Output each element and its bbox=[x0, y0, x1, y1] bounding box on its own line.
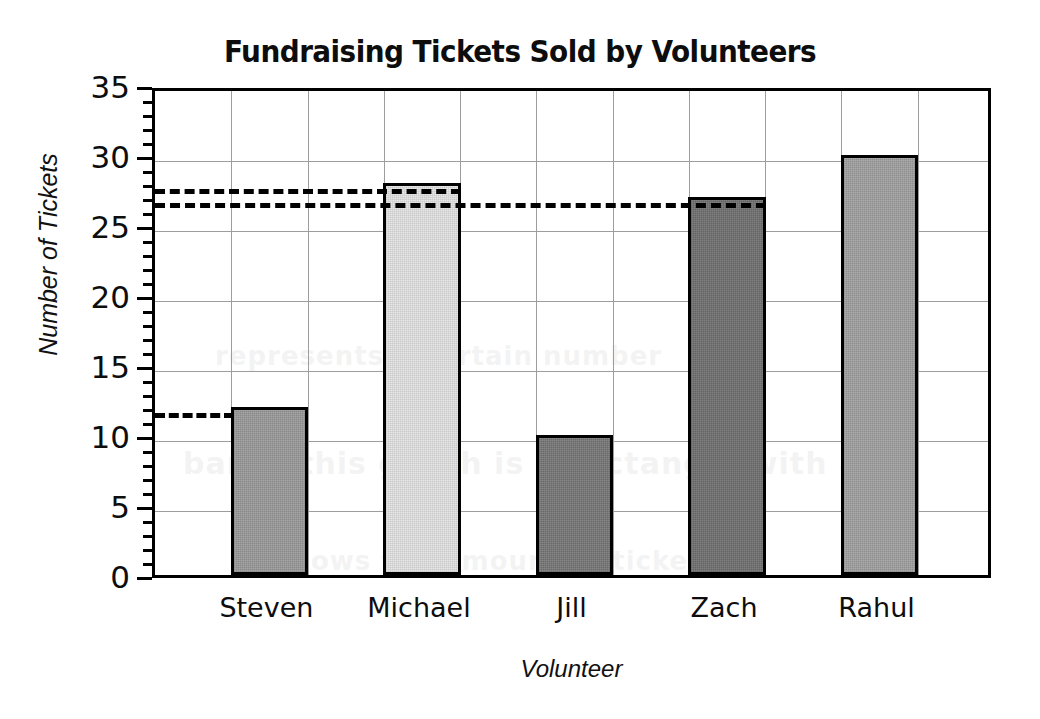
y-tick-major-30 bbox=[137, 157, 152, 160]
y-tick-minor-12 bbox=[143, 409, 152, 412]
y-tick-label-20: 20 bbox=[60, 282, 130, 313]
y-tick-minor-31 bbox=[143, 143, 152, 146]
bar-texture bbox=[539, 438, 611, 572]
y-tick-major-10 bbox=[137, 437, 152, 440]
y-tick-label-30: 30 bbox=[60, 142, 130, 173]
y-tick-minor-1 bbox=[143, 563, 152, 566]
y-tick-minor-9 bbox=[143, 451, 152, 454]
y-tick-major-25 bbox=[137, 227, 152, 230]
y-tick-major-35 bbox=[137, 87, 152, 90]
y-tick-minor-29 bbox=[143, 171, 152, 174]
y-tick-minor-8 bbox=[143, 465, 152, 468]
y-tick-minor-24 bbox=[143, 241, 152, 244]
y-tick-minor-28 bbox=[143, 185, 152, 188]
y-tick-label-5: 5 bbox=[60, 492, 130, 523]
y-tick-minor-18 bbox=[143, 325, 152, 328]
reference-line-12 bbox=[155, 413, 234, 418]
y-tick-minor-21 bbox=[143, 283, 152, 286]
bar-michael bbox=[383, 183, 461, 575]
y-tick-minor-27 bbox=[143, 199, 152, 202]
y-tick-minor-2 bbox=[143, 549, 152, 552]
y-tick-minor-17 bbox=[143, 339, 152, 342]
y-tick-minor-19 bbox=[143, 311, 152, 314]
bar-zach bbox=[688, 197, 766, 575]
y-tick-minor-34 bbox=[143, 101, 152, 104]
y-tick-label-0: 0 bbox=[60, 562, 130, 593]
y-tick-label-15: 15 bbox=[60, 352, 130, 383]
bar-texture bbox=[234, 410, 306, 572]
y-tick-minor-26 bbox=[143, 213, 152, 216]
chart-figure: Fundraising Tickets Sold by Volunteers N… bbox=[0, 0, 1040, 719]
y-axis-title: Number of Tickets bbox=[34, 55, 63, 455]
plot-inner: bar in this graph is a rectangle with as… bbox=[155, 91, 988, 575]
bleedthrough-line-2: shows the amount of tickets bbox=[275, 546, 718, 576]
y-tick-minor-7 bbox=[143, 479, 152, 482]
y-tick-minor-13 bbox=[143, 395, 152, 398]
y-tick-minor-16 bbox=[143, 353, 152, 356]
y-tick-major-0 bbox=[137, 577, 152, 580]
bar-steven bbox=[231, 407, 309, 575]
y-tick-minor-6 bbox=[143, 493, 152, 496]
bar-texture bbox=[386, 186, 458, 572]
y-tick-major-5 bbox=[137, 507, 152, 510]
y-tick-minor-23 bbox=[143, 255, 152, 258]
bar-texture bbox=[691, 200, 763, 572]
y-tick-minor-11 bbox=[143, 423, 152, 426]
x-axis-title: Volunteer bbox=[152, 655, 991, 683]
x-tick-label-rahul: Rahul bbox=[777, 592, 977, 623]
bar-rahul bbox=[841, 155, 919, 575]
reference-line-28 bbox=[155, 189, 461, 194]
y-tick-minor-4 bbox=[143, 521, 152, 524]
y-tick-label-35: 35 bbox=[60, 72, 130, 103]
bar-texture bbox=[844, 158, 916, 572]
y-tick-major-20 bbox=[137, 297, 152, 300]
chart-title: Fundraising Tickets Sold by Volunteers bbox=[36, 34, 1003, 69]
y-tick-minor-14 bbox=[143, 381, 152, 384]
y-tick-major-15 bbox=[137, 367, 152, 370]
plot-area: bar in this graph is a rectangle with as… bbox=[152, 88, 991, 578]
y-tick-minor-32 bbox=[143, 129, 152, 132]
y-tick-minor-33 bbox=[143, 115, 152, 118]
y-tick-minor-3 bbox=[143, 535, 152, 538]
bar-jill bbox=[536, 435, 614, 575]
reference-line-27 bbox=[155, 203, 766, 208]
y-tick-label-10: 10 bbox=[60, 422, 130, 453]
y-tick-label-25: 25 bbox=[60, 212, 130, 243]
y-tick-minor-22 bbox=[143, 269, 152, 272]
